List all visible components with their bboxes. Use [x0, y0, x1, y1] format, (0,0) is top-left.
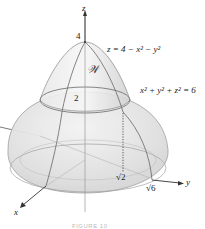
- sphere-equation: x² + y² + z² = 6: [140, 86, 196, 95]
- x-axis: [23, 186, 46, 205]
- y-tick-sqrt6: √6: [146, 184, 155, 193]
- region-label-W: 𝒲: [87, 64, 99, 75]
- x-axis-label: x: [14, 208, 18, 217]
- paraboloid-equation: z = 4 − x² − y²: [107, 45, 160, 54]
- z-tick-2: 2: [74, 94, 79, 103]
- figure-caption: FIGURE 10: [72, 223, 108, 229]
- y-tick-sqrt2: √2: [116, 173, 125, 182]
- solid-region-diagram: [0, 0, 205, 229]
- y-axis-arrowhead: [178, 181, 184, 186]
- y-axis-label: y: [186, 178, 190, 187]
- z-axis-label: z: [82, 4, 86, 13]
- y-axis: [152, 180, 180, 183]
- apex-point: [84, 41, 86, 43]
- z-tick-4: 4: [76, 32, 81, 41]
